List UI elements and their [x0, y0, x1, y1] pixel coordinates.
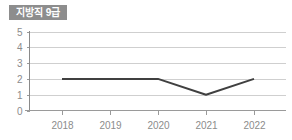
x-axis-tick-label: 2022: [243, 120, 266, 131]
chart-title-label: 지방직 9급: [16, 5, 60, 20]
data-series-line: [62, 79, 254, 95]
y-axis-tick-label: 0: [17, 106, 23, 117]
x-axis-tick-label: 2021: [195, 120, 218, 131]
y-axis-tick-label: 1: [17, 90, 23, 101]
grid-lines: [30, 33, 287, 96]
chart-canvas: 012345 20182019202020212022: [0, 26, 292, 140]
chart-panel: 지방직 9급 012345 20182019202020212022: [0, 0, 292, 140]
chart-title-badge: 지방직 9급: [9, 5, 67, 20]
x-axis-tick-label: 2018: [51, 120, 74, 131]
x-axis-tick-label: 2019: [99, 120, 122, 131]
y-axis-tick-labels: 012345: [17, 27, 23, 117]
line-chart: 012345 20182019202020212022: [0, 26, 292, 140]
y-axis-tick-label: 2: [17, 74, 23, 85]
x-axis-tick-label: 2020: [147, 120, 170, 131]
x-axis-tick-labels: 20182019202020212022: [51, 120, 266, 131]
y-axis-tick-label: 4: [17, 42, 23, 53]
y-axis-tick-label: 3: [17, 58, 23, 69]
y-axis-tick-label: 5: [17, 27, 23, 38]
